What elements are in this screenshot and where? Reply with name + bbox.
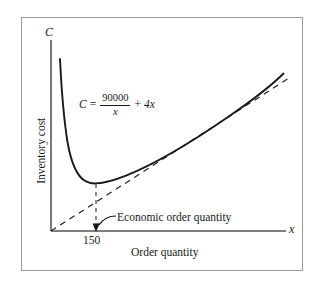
equation-fraction: 90000 x [100,93,130,117]
equation-lhs: C [79,99,87,111]
equation-numerator: 90000 [100,93,130,105]
equation-denominator: x [111,106,120,118]
equation-linear-term: 4x [144,99,155,111]
equation-equals-sign: = [90,99,97,111]
x-axis-tick-label-150: 150 [83,235,100,247]
y-axis-symbol: C [45,26,53,38]
x-axis-symbol: x [289,223,294,235]
cost-curve [60,59,284,183]
figure-container: C x Inventory cost Order quantity 150 Ec… [0,0,324,289]
equation-plus-sign: + [134,99,141,111]
annotation-economic-order-quantity: Economic order quantity [117,212,231,224]
annotation-leader-line [99,216,116,225]
curve-equation: C = 90000 x + 4x [79,93,155,117]
y-axis-title: Inventory cost [36,101,48,201]
x-axis-title: Order quantity [131,247,198,259]
